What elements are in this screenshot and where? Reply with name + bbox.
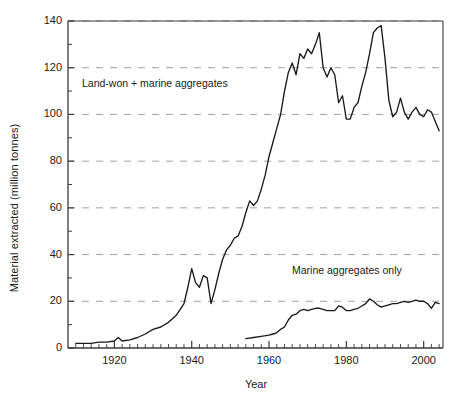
y-axis-tick-label: 80 [32,155,62,166]
y-axis-tick-label: 140 [32,15,62,26]
y-axis-title-text: Material extracted (million tonnes) [8,98,20,318]
series-marine-only [246,299,439,339]
y-axis-tick-label: 100 [32,108,62,119]
y-axis-tick-labels: 020406080100120140 [28,0,62,404]
x-axis-tick-label: 1920 [91,354,137,366]
annotation-marine-only: Marine aggregates only [292,264,402,276]
annotation-land-won: Land-won + marine aggregates [82,77,228,89]
chart-plot-area [0,0,457,404]
y-axis-tick-label: 120 [32,62,62,73]
chart-container: 020406080100120140 19201940196019802000 … [0,0,457,404]
y-axis-tick-label: 60 [32,202,62,213]
x-axis-tick-label: 1980 [323,354,369,366]
y-axis-tick-label: 20 [32,295,62,306]
y-axis-tick-label: 40 [32,249,62,260]
x-axis-title: Year [68,378,444,390]
x-axis-tick-label: 1960 [246,354,292,366]
y-axis-tick-label: 0 [32,342,62,353]
x-axis-tick-label: 2000 [401,354,447,366]
x-axis-tick-label: 1940 [169,354,215,366]
series-land-won-marine [76,26,439,344]
y-axis-title: Material extracted (million tonnes) [8,0,26,98]
